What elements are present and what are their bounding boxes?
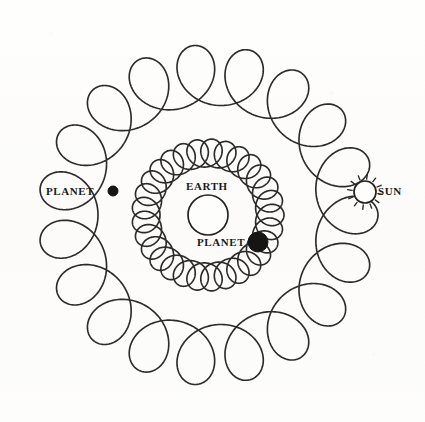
earth-label: EARTH xyxy=(186,180,228,192)
planet-outer-label: PLANET xyxy=(46,185,94,197)
sun-ray xyxy=(373,178,376,182)
sun-ray xyxy=(370,204,372,208)
sun-ray xyxy=(354,202,357,206)
earth-circle xyxy=(188,195,228,235)
sun-circle-icon xyxy=(354,181,376,203)
planet-marker-outer-dot xyxy=(108,186,118,196)
planet-inner-label: PLANET xyxy=(197,236,245,248)
sun-ray xyxy=(351,181,355,184)
sun-ray xyxy=(375,200,379,203)
planet-marker-inner-dot xyxy=(248,232,268,252)
sun-ray xyxy=(348,190,352,191)
epicycle-diagram xyxy=(0,0,425,422)
sun-ray xyxy=(358,176,360,180)
sun-ray xyxy=(363,205,364,209)
earth-group xyxy=(188,195,228,235)
sun-ray xyxy=(367,175,368,179)
sun-label: SUN xyxy=(378,185,402,197)
figure-canvas: EARTH SUN PLANET PLANET xyxy=(0,0,425,422)
